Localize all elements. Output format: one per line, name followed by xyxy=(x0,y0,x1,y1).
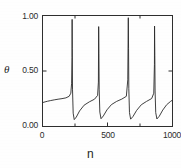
figure-panel: 1.00 0.50 0.00 θ 0 500 1000 n xyxy=(0,0,181,168)
x-axis-ticks xyxy=(43,123,173,127)
y-axis-ticks xyxy=(43,16,47,127)
plot-area xyxy=(0,0,181,168)
series-line-theta xyxy=(43,18,173,120)
